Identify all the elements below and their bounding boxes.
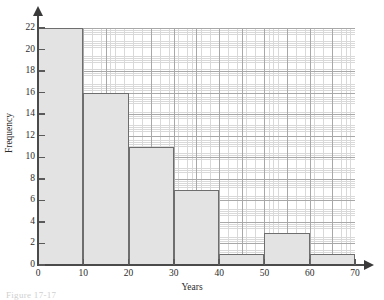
y-axis-tick: [39, 264, 45, 265]
y-axis-tick: [39, 221, 45, 222]
x-axis-tick-label: 60: [295, 268, 325, 278]
x-axis-tick-label: 50: [249, 268, 279, 278]
histogram-bar: [38, 28, 83, 265]
y-axis-tick: [39, 135, 45, 136]
x-axis-tick-label: 0: [23, 268, 53, 278]
x-axis-tick: [354, 259, 355, 265]
x-axis-tick: [264, 259, 265, 265]
y-axis-tick: [39, 70, 45, 71]
x-axis-tick-label: 40: [204, 268, 234, 278]
y-axis-tick-label: 20: [5, 45, 35, 55]
y-axis-tick: [39, 92, 45, 93]
y-axis-tick: [39, 113, 45, 114]
x-axis-tick: [218, 259, 219, 265]
x-axis-line: [38, 264, 368, 266]
x-axis-tick-label: 10: [68, 268, 98, 278]
y-axis-tick: [39, 200, 45, 201]
y-axis-tick: [39, 178, 45, 179]
x-axis-tick-label: 20: [114, 268, 144, 278]
x-axis-tick: [309, 259, 310, 265]
y-axis-arrow-icon: [33, 6, 43, 16]
y-axis-tick-label: 8: [5, 174, 35, 184]
y-axis-tick: [39, 27, 45, 28]
plot-area: [38, 28, 355, 265]
histogram-bar: [174, 190, 219, 265]
histogram-bar: [264, 233, 309, 265]
histogram-figure: 0246810121416182022 010203040506070 Year…: [0, 0, 384, 300]
y-axis-tick-label: 6: [5, 195, 35, 205]
x-axis-tick: [173, 259, 174, 265]
y-axis-tick: [39, 157, 45, 158]
histogram-bar: [129, 147, 174, 266]
figure-caption: Figure 17-17: [6, 290, 56, 300]
y-axis-tick: [39, 49, 45, 50]
x-axis-tick: [128, 259, 129, 265]
x-axis-tick-label: 70: [340, 268, 370, 278]
histogram-bar: [83, 93, 128, 265]
y-axis-tick: [39, 243, 45, 244]
y-axis-line: [37, 14, 39, 266]
y-axis-title: Frequency: [4, 95, 14, 171]
x-axis-title: Years: [0, 282, 384, 292]
x-axis-tick: [83, 259, 84, 265]
x-axis-tick-label: 30: [159, 268, 189, 278]
y-axis-tick-label: 2: [5, 238, 35, 248]
y-axis-tick-label: 22: [5, 23, 35, 33]
y-axis-tick-label: 4: [5, 217, 35, 227]
y-axis-tick-label: 18: [5, 66, 35, 76]
